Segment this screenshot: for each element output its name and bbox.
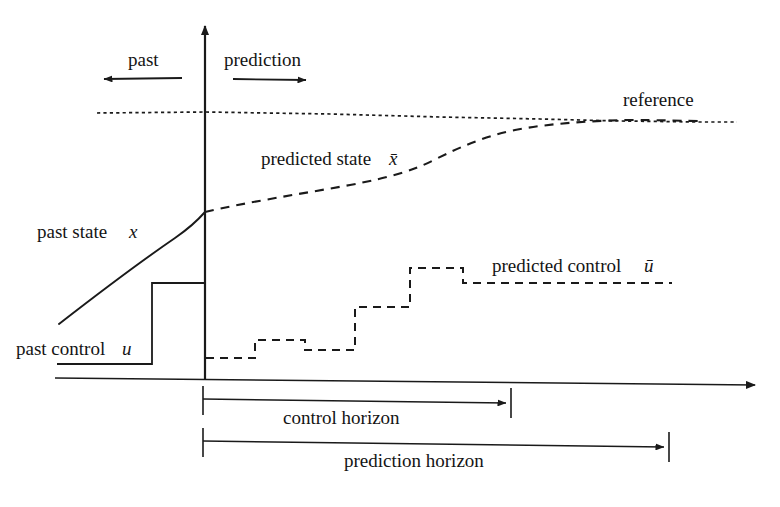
label-past-control: past control — [16, 338, 105, 359]
prediction-horizon-arrow — [203, 441, 664, 447]
label-predicted-state-group: predicted state x̄ — [261, 148, 398, 169]
mpc-diagram-canvas: past prediction reference predicted stat… — [0, 0, 780, 507]
label-past-state-group: past state x — [37, 221, 138, 242]
prediction-direction-arrow — [233, 79, 306, 80]
label-control-horizon: control horizon — [283, 407, 400, 428]
label-past-state: past state — [37, 221, 107, 242]
control-horizon-arrow — [203, 399, 506, 403]
x-axis — [55, 378, 755, 385]
mpc-diagram: past prediction reference predicted stat… — [0, 0, 780, 507]
past-direction-arrow — [104, 78, 182, 79]
label-reference: reference — [623, 89, 694, 110]
predicted-control-step — [206, 268, 672, 358]
label-prediction-horizon: prediction horizon — [344, 450, 484, 471]
label-prediction: prediction — [224, 49, 302, 70]
axes-group — [55, 26, 755, 385]
label-predicted-state: predicted state — [261, 148, 371, 169]
label-past-state-symbol: x — [128, 221, 138, 242]
label-predicted-control-group: predicted control ū — [492, 255, 654, 276]
label-past-control-group: past control u — [16, 338, 132, 359]
label-past-control-symbol: u — [122, 338, 132, 359]
label-predicted-control-symbol: ū — [644, 255, 654, 276]
label-past: past — [128, 49, 159, 70]
label-predicted-control: predicted control — [492, 255, 621, 276]
label-predicted-state-symbol: x̄ — [388, 148, 398, 169]
